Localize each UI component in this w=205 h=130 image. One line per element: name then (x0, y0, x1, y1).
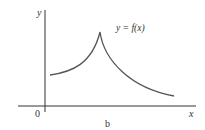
function-curve (50, 32, 174, 96)
caption: b (105, 118, 110, 129)
y-axis-label: y (36, 7, 42, 18)
function-graph: y x 0 y = f(x) b (0, 0, 205, 130)
x-axis-label: x (188, 108, 194, 119)
origin-label: 0 (35, 108, 40, 119)
curve-label: y = f(x) (115, 23, 145, 34)
